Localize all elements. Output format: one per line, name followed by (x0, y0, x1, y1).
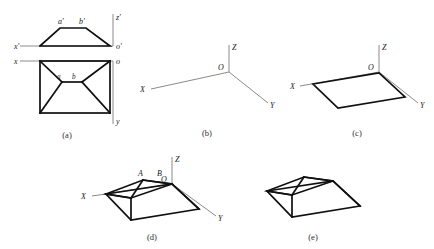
panel-e-caption: (e) (308, 232, 318, 242)
panel-a-y-axis-label: y (115, 117, 120, 126)
front-view-hip-edge-bottom-left (40, 82, 62, 113)
panel-a-o-prime-origin-label: o′ (116, 42, 122, 51)
panel-b: X Y Z O (b) (139, 43, 276, 138)
panel-c-caption: (c) (352, 128, 362, 138)
technical-drawing-canvas: x′ z′ o′ a′ b′ x o y a b (a) X Y Z O (b) (0, 0, 434, 249)
panel-c-axonometric-axes (300, 45, 418, 103)
panel-a-o-origin-label: o (116, 57, 120, 66)
ridge-line (304, 177, 333, 181)
panel-a-caption: (a) (62, 130, 72, 140)
y-axis-line (172, 184, 216, 216)
panel-c-z-axis-label: Z (382, 43, 387, 52)
panel-d-caption: (d) (147, 232, 157, 242)
panel-d-ridge-point-b-label: B (157, 169, 162, 178)
panel-d-solid (106, 180, 199, 220)
panel-b-origin-label: O (218, 63, 224, 72)
panel-e-solid (267, 177, 360, 217)
panel-c: X Y Z O (c) (289, 43, 426, 138)
panel-a-a-prime-point-label: a′ (58, 17, 64, 26)
panel-a-z-prime-axis-label: z′ (115, 13, 121, 22)
front-view-hip-edge-top-right (82, 61, 110, 82)
panel-b-caption: (b) (202, 128, 212, 138)
panel-a-a-point-label: a (57, 73, 61, 81)
panel-a: x′ z′ o′ a′ b′ x o y a b (a) (13, 13, 122, 140)
panel-a-b-prime-point-label: b′ (79, 17, 85, 26)
panel-e: (e) (267, 177, 360, 242)
panel-d-ridge-point-a-label: A (137, 169, 143, 178)
panel-a-x-prime-axis-label: x′ (13, 42, 20, 51)
x-axis-line (151, 72, 229, 89)
panel-c-y-axis-label: Y (420, 101, 426, 110)
front-view-hip-edge-bottom-right (82, 82, 110, 113)
base-parallelogram-outline (313, 73, 405, 108)
panel-d-x-axis-label: X (80, 192, 87, 201)
panel-c-x-axis-label: X (289, 82, 296, 91)
y-axis-line (229, 72, 268, 103)
panel-a-front-view (40, 61, 110, 113)
ridge-line-ab (143, 180, 172, 184)
panel-b-y-axis-label: Y (270, 101, 276, 110)
panel-d-origin-label: O (161, 175, 167, 184)
panel-c-base-parallelogram (313, 73, 405, 108)
figure-root: x′ z′ o′ a′ b′ x o y a b (a) X Y Z O (b) (0, 0, 434, 249)
panel-b-z-axis-label: Z (232, 43, 237, 52)
panel-c-origin-label: O (368, 63, 374, 72)
panel-d-z-axis-label: Z (175, 155, 180, 164)
panel-b-x-axis-label: X (139, 85, 146, 94)
panel-d-y-axis-label: Y (218, 214, 224, 223)
top-view-trapezoid-outline (40, 28, 110, 46)
hip-edge-right-front (333, 181, 360, 206)
panel-d: X Y Z O A B (d) (80, 155, 224, 242)
panel-b-axonometric-axes (151, 45, 268, 103)
panel-a-top-view (40, 28, 110, 46)
panel-a-x-axis-label: x (13, 57, 18, 66)
hip-edge-right-front (172, 184, 199, 209)
panel-a-b-point-label: b (72, 73, 76, 81)
